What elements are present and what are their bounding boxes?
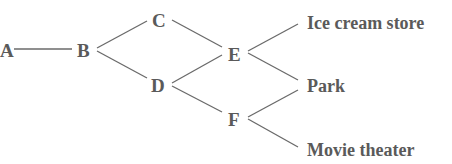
node-e: E <box>228 45 241 64</box>
edge-f-park <box>248 90 298 117</box>
edge-d-e <box>172 55 222 83</box>
edge-f-movie <box>248 119 298 147</box>
edge-e-icecream <box>248 24 298 51</box>
tree-diagram: A B C D E F Ice cream store Park Movie t… <box>0 0 452 164</box>
dest-park: Park <box>307 77 345 95</box>
node-c: C <box>152 11 166 30</box>
node-d: D <box>151 76 165 95</box>
dest-movie-theater: Movie theater <box>307 141 414 159</box>
node-f: F <box>228 110 240 129</box>
node-b: B <box>77 41 90 60</box>
dest-ice-cream-store: Ice cream store <box>307 14 424 32</box>
node-a: A <box>0 41 14 60</box>
edge-d-f <box>172 86 222 112</box>
edge-b-c <box>97 21 147 48</box>
edge-b-d <box>97 51 147 78</box>
edge-e-park <box>248 53 298 80</box>
edge-c-e <box>172 20 222 47</box>
